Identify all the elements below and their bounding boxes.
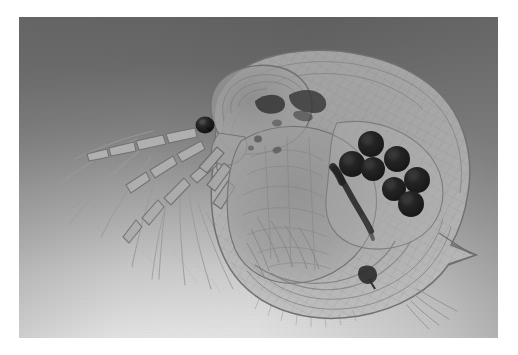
daphnia-specimen [19,17,498,338]
microscopy-photograph [19,17,498,338]
screenshot-root [0,0,518,355]
lighting-overlay [19,17,498,338]
